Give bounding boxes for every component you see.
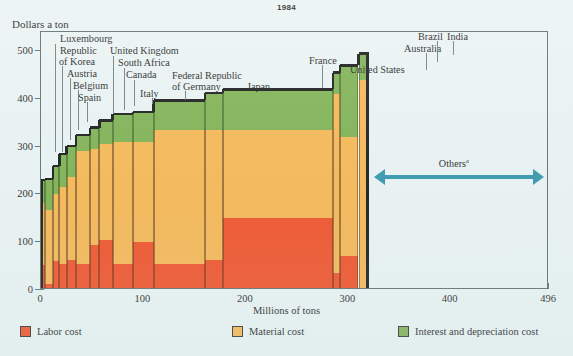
callout-brazil: Brazil xyxy=(418,31,443,43)
bar-japan xyxy=(154,100,205,288)
bar-south-africa xyxy=(90,128,99,288)
callout-leader-line xyxy=(87,102,88,122)
bar-segment-material xyxy=(154,130,205,264)
bar-step-riser xyxy=(132,112,134,114)
bar-segment-labor xyxy=(67,260,76,288)
legend-label: Labor cost xyxy=(37,326,82,337)
y-tick-label: 200 xyxy=(3,188,33,199)
x-tick-mark xyxy=(548,283,549,289)
callout-austria: Austria xyxy=(67,68,97,80)
chart-title: 1984 xyxy=(0,3,573,12)
legend: Labor costMaterial costInterest and depr… xyxy=(0,326,573,348)
bar-segment-interest xyxy=(45,179,53,210)
y-tick-mark xyxy=(35,289,44,290)
bar-step-riser xyxy=(332,73,334,90)
callout-republic: Republic xyxy=(60,45,97,57)
bar-segment-interest xyxy=(113,114,133,142)
legend-swatch xyxy=(232,326,243,337)
callout-of-korea: of Korea xyxy=(59,56,95,68)
callout-leader-line xyxy=(55,44,56,152)
y-axis-title: Dollars a ton xyxy=(12,18,69,30)
bar-segment-interest xyxy=(223,89,333,130)
legend-item-interest-and-depreciation-cost: Interest and depreciation cost xyxy=(398,326,538,337)
bar-top-cap xyxy=(154,99,205,101)
others-arrow-line xyxy=(383,175,535,179)
bar-step-riser xyxy=(75,135,77,146)
x-tick-label: 0 xyxy=(37,293,42,304)
callout-leader-line xyxy=(70,78,71,140)
bar-segment-interest xyxy=(76,135,90,152)
callout-of-germany: of Germany xyxy=(172,81,221,93)
bar-segment-material xyxy=(59,187,66,263)
callout-spain: Spain xyxy=(78,92,101,104)
others-label: Othersa xyxy=(439,157,469,169)
callout-united-states: United States xyxy=(350,64,405,76)
callout-japan: Japan xyxy=(247,81,270,93)
bar-step-riser xyxy=(58,154,60,166)
bar-step-riser xyxy=(339,65,341,72)
legend-swatch xyxy=(398,326,409,337)
bar-federal-republic-of-germany xyxy=(133,112,153,288)
legend-swatch xyxy=(20,326,31,337)
callout-united-kingdom: United Kingdom xyxy=(110,45,179,57)
y-tick-label: 0 xyxy=(3,284,33,295)
bar-step-riser xyxy=(65,146,67,154)
callout-leader-line xyxy=(185,91,186,100)
bar-segment-material xyxy=(76,151,90,263)
legend-item-labor-cost: Labor cost xyxy=(20,326,82,337)
bar-step-riser xyxy=(44,179,46,180)
others-arrow-left-head xyxy=(374,169,385,185)
bar-segment-labor xyxy=(59,264,66,288)
bar-segment-labor xyxy=(333,273,340,288)
bar-step-riser xyxy=(89,128,91,135)
bar-segment-labor xyxy=(223,218,333,288)
bar-segment-material xyxy=(333,94,340,273)
callout-leader-line xyxy=(152,98,153,104)
bar-segment-labor xyxy=(205,260,223,288)
bar-segment-material xyxy=(90,149,99,245)
bar-step-riser xyxy=(111,114,113,120)
x-tick-label: 496 xyxy=(540,293,556,304)
bar-top-cap xyxy=(133,111,153,113)
bar-top-cap xyxy=(113,113,133,115)
bar-step-riser xyxy=(222,89,224,93)
y-tick-label: 400 xyxy=(3,92,33,103)
bar-brazil xyxy=(340,65,358,288)
legend-label: Interest and depreciation cost xyxy=(415,326,538,337)
bar-segment-labor xyxy=(99,240,112,288)
others-arrow-right-head xyxy=(533,169,544,185)
x-tick-label: 200 xyxy=(237,293,253,304)
bar-segment-material xyxy=(113,142,133,264)
bar-segment-interest xyxy=(67,146,76,177)
callout-india: India xyxy=(447,31,468,43)
others-label-superscript: a xyxy=(466,157,469,164)
bar-step-riser xyxy=(98,120,100,127)
bar-step-riser xyxy=(204,93,206,100)
bar-segment-interest xyxy=(133,112,153,142)
callout-leader-line xyxy=(453,41,454,55)
bar-segment-interest xyxy=(340,65,358,137)
bar-republic-of-korea xyxy=(45,179,53,288)
bar-segment-labor xyxy=(45,284,53,288)
y-tick-label: 300 xyxy=(3,140,33,151)
bar-australia xyxy=(333,73,340,288)
chart-root: 1984 Dollars a ton 0100200300400500 0100… xyxy=(0,0,573,356)
bar-segment-labor xyxy=(154,264,205,288)
callout-luxembourg: Luxembourg xyxy=(60,33,112,45)
bar-united-states xyxy=(223,89,333,288)
bar-france xyxy=(205,93,223,288)
bar-segment-labor xyxy=(340,256,358,288)
bar-segment-interest xyxy=(154,100,205,130)
bar-segment-interest xyxy=(99,120,112,144)
bar-segment-labor xyxy=(90,245,99,288)
x-tick-label: 100 xyxy=(135,293,151,304)
plot-inner xyxy=(41,32,547,288)
callout-federal-republic: Federal Republic xyxy=(172,70,242,82)
bar-top-cap xyxy=(223,88,333,90)
bar-segment-material xyxy=(223,130,333,218)
bar-step-riser xyxy=(366,54,368,289)
bar-segment-material xyxy=(45,210,53,284)
bar-segment-interest xyxy=(90,128,99,150)
plot-area xyxy=(40,31,548,289)
bar-united-kingdom xyxy=(76,135,90,288)
